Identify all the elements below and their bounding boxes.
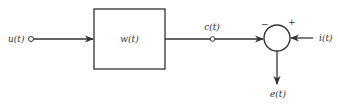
input-node: [29, 37, 34, 42]
minus-sign: −: [261, 19, 269, 29]
plus-sign: +: [288, 17, 296, 27]
error-label: e(t): [270, 89, 286, 99]
block-diagram: u(t) w(t) c(t) − + i(t) e(t): [0, 0, 338, 106]
block-label: w(t): [120, 34, 139, 44]
reference-label: i(t): [319, 33, 333, 43]
input-label: u(t): [8, 34, 25, 44]
output-label: c(t): [204, 22, 220, 32]
output-node: [210, 37, 215, 42]
